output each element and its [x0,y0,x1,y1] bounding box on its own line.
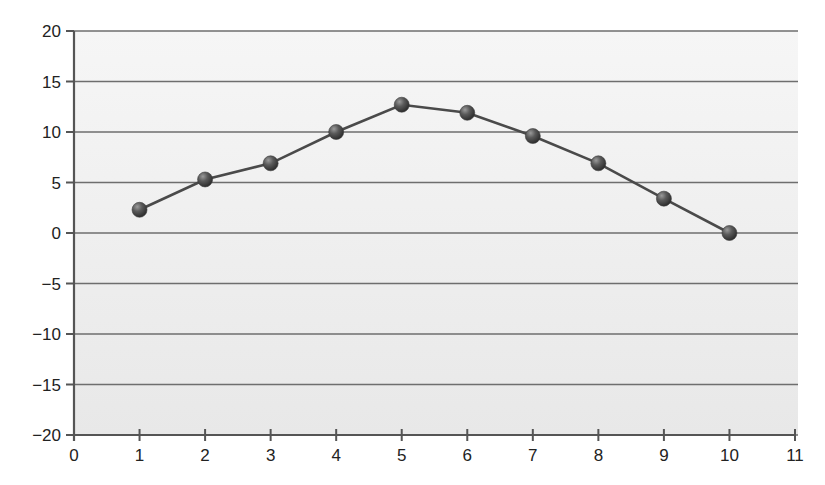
y-tick-label: −15 [32,376,61,395]
y-tick-label: 15 [42,73,61,92]
x-axis-tick-labels: 01234567891011 [69,446,804,465]
y-tick-label: −10 [32,325,61,344]
y-tick-label: −20 [32,426,61,445]
y-tick-label: 0 [52,224,61,243]
data-point-marker [460,105,475,120]
x-tick-label: 4 [331,446,340,465]
x-tick-label: 5 [397,446,406,465]
data-point-marker [394,97,409,112]
y-tick-label: 20 [42,22,61,41]
x-tick-label: 2 [200,446,209,465]
y-tick-label: −5 [42,275,61,294]
x-tick-label: 6 [463,446,472,465]
data-point-marker [591,156,606,171]
x-tick-label: 7 [528,446,537,465]
x-tick-label: 9 [659,446,668,465]
data-point-marker [656,191,671,206]
x-tick-label: 1 [135,446,144,465]
data-point-marker [132,202,147,217]
data-point-marker [525,129,540,144]
y-tick-label: 5 [52,174,61,193]
x-tick-label: 8 [594,446,603,465]
x-tick-label: 0 [69,446,78,465]
line-chart: 20151050−5−10−15−20 01234567891011 [0,0,825,485]
x-tick-label: 10 [720,446,739,465]
x-tick-label: 3 [266,446,275,465]
data-point-marker [198,172,213,187]
y-axis-tick-labels: 20151050−5−10−15−20 [32,22,61,445]
data-point-marker [329,125,344,140]
data-point-marker [263,156,278,171]
data-point-marker [722,226,737,241]
y-tick-label: 10 [42,123,61,142]
x-tick-label: 11 [786,446,804,465]
